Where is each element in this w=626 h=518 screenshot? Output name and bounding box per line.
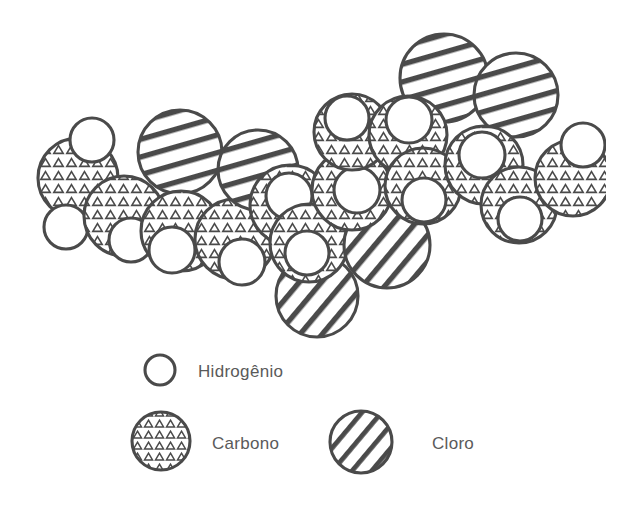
atom-hidrogenio xyxy=(325,96,369,140)
legend-swatch-carbono xyxy=(132,412,190,470)
atom-hidrogenio xyxy=(149,227,195,273)
atom-hidrogenio xyxy=(402,178,446,222)
molecule-chain xyxy=(38,34,611,337)
atom-hidrogenio xyxy=(459,132,505,178)
legend-swatch-cloro xyxy=(330,411,392,473)
atom-hidrogenio xyxy=(334,167,380,213)
legend-swatch-hidrogenio xyxy=(145,355,175,385)
atom-cloro xyxy=(138,110,222,194)
atom-hidrogenio xyxy=(561,123,605,167)
atom-hidrogenio xyxy=(386,97,432,143)
legend-label-carbono: Carbono xyxy=(212,434,279,453)
legend-item-cloro: Cloro xyxy=(330,411,474,473)
legend-item-carbono: Carbono xyxy=(132,412,279,470)
atom-hidrogenio xyxy=(498,197,542,241)
pvc-molecule-figure: HidrogênioCarbonoCloro xyxy=(0,0,626,518)
atom-hidrogenio xyxy=(219,239,265,285)
legend-label-cloro: Cloro xyxy=(432,434,474,453)
legend-item-hidrogenio: Hidrogênio xyxy=(145,355,283,385)
legend-label-hidrogenio: Hidrogênio xyxy=(198,362,283,381)
atom-cloro xyxy=(474,53,558,137)
atom-hidrogenio xyxy=(44,205,88,249)
atom-hidrogenio xyxy=(285,231,329,275)
legend: HidrogênioCarbonoCloro xyxy=(132,355,474,473)
atom-hidrogenio xyxy=(70,118,114,162)
